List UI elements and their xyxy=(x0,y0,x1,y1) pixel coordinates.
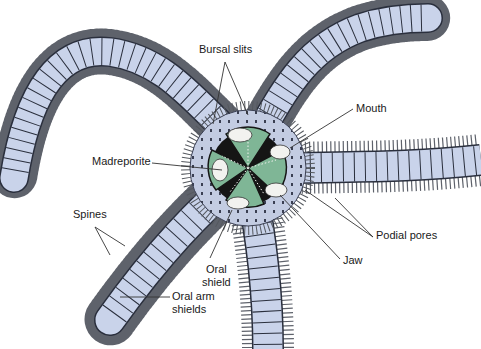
label-podial-pores: Podial pores xyxy=(376,229,437,242)
label-oral-shield: Oral shield xyxy=(202,263,231,289)
label-bursal-slits: Bursal slits xyxy=(199,43,252,56)
label-oral-arm-shields: Oral arm shields xyxy=(172,290,215,316)
label-jaw: Jaw xyxy=(343,254,363,267)
label-madreporite: Madreporite xyxy=(92,155,151,168)
label-oral-arm-shields-line2: shields xyxy=(172,303,215,316)
brittle-star-diagram: Bursal slits Mouth Madreporite Spines Or… xyxy=(0,0,481,349)
label-oral-arm-shields-line1: Oral arm xyxy=(172,290,215,303)
label-oral-shield-line1: Oral xyxy=(202,263,231,276)
label-mouth: Mouth xyxy=(356,102,387,115)
label-oral-shield-line2: shield xyxy=(202,276,231,289)
label-spines: Spines xyxy=(73,208,107,221)
